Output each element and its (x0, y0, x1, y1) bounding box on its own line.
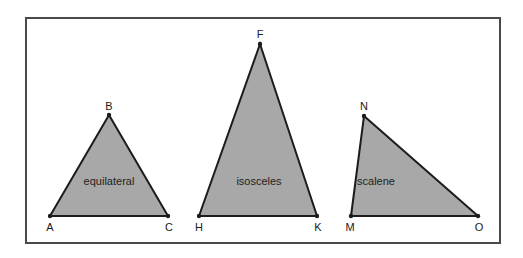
isosceles-triangle-shape (199, 44, 317, 216)
vertex-label-b: B (105, 100, 112, 112)
vertex-o-dot (476, 214, 480, 218)
vertex-label-k: K (314, 221, 322, 233)
vertex-label-m: M (345, 221, 354, 233)
triangle-type-label: scalene (357, 175, 395, 187)
equilateral-triangle-shape (50, 115, 168, 216)
scalene-triangle: M N O scalene (345, 100, 483, 233)
vertex-a-dot (48, 214, 52, 218)
vertex-b-dot (107, 113, 111, 117)
vertex-label-n: N (360, 100, 368, 112)
vertex-c-dot (166, 214, 170, 218)
vertex-n-dot (362, 114, 366, 118)
vertex-label-h: H (195, 221, 203, 233)
vertex-k-dot (315, 214, 319, 218)
triangles-diagram: A B C equilateral H F K isosceles M N O … (0, 0, 523, 258)
vertex-f-dot (258, 42, 262, 46)
equilateral-triangle: A B C equilateral (46, 100, 173, 233)
triangle-type-label: equilateral (84, 175, 135, 187)
vertex-label-a: A (46, 221, 54, 233)
triangle-type-label: isosceles (236, 175, 282, 187)
vertex-m-dot (349, 214, 353, 218)
vertex-h-dot (197, 214, 201, 218)
vertex-label-f: F (257, 28, 264, 40)
isosceles-triangle: H F K isosceles (195, 28, 322, 233)
scalene-triangle-shape (351, 116, 478, 216)
vertex-label-o: O (475, 221, 484, 233)
vertex-label-c: C (165, 221, 173, 233)
